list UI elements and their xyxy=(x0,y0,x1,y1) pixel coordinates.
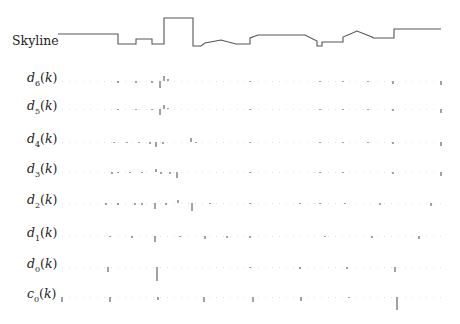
wavelet-decomposition-figure: Skyline d6(k)d5(k)d4(k)d3(k)d2(k)d1(k)d0… xyxy=(0,0,460,324)
skyline-signal xyxy=(58,18,441,46)
plot-area xyxy=(0,0,460,324)
